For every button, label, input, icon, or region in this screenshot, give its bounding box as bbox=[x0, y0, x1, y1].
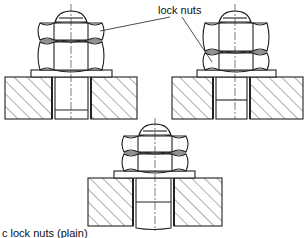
bolt-shank bbox=[216, 77, 247, 119]
thin-lock-nut bbox=[203, 51, 269, 72]
leader-lines bbox=[100, 17, 212, 62]
lock-nuts-diagram bbox=[0, 0, 306, 238]
plate-right-section bbox=[174, 178, 222, 226]
plate-right-section bbox=[91, 77, 137, 119]
bolt-shank bbox=[136, 178, 171, 230]
washer bbox=[31, 70, 112, 77]
lock-nuts-label: lock nuts bbox=[158, 5, 201, 16]
washer bbox=[197, 70, 276, 77]
plate-left-section bbox=[172, 77, 213, 119]
plate-left-section bbox=[5, 77, 52, 119]
bolt-shank bbox=[55, 77, 88, 119]
figure-caption: c lock nuts (plain) bbox=[2, 228, 88, 238]
plate-right-section bbox=[250, 77, 303, 119]
washer bbox=[114, 171, 195, 178]
thick-nut bbox=[203, 21, 269, 53]
figure-c bbox=[88, 118, 222, 231]
figure-a bbox=[5, 4, 137, 119]
figure-b bbox=[172, 4, 303, 119]
plate-left-section bbox=[88, 178, 133, 226]
